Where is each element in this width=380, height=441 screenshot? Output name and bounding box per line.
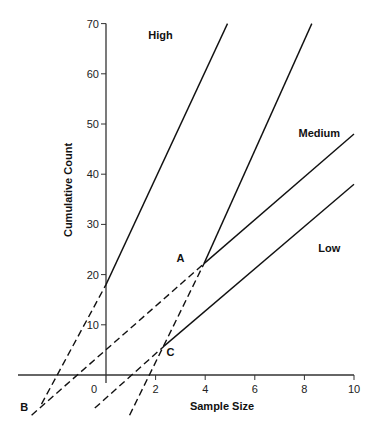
y-axis-title: Cumulative Count bbox=[62, 143, 74, 237]
x-tick-label: 8 bbox=[301, 383, 307, 395]
series-line-high bbox=[106, 24, 228, 285]
y-tick-label: 40 bbox=[87, 168, 99, 180]
series-line-low bbox=[164, 184, 354, 346]
series-group bbox=[32, 24, 354, 416]
x-tick-label: 6 bbox=[252, 383, 258, 395]
y-tick-label: 30 bbox=[87, 218, 99, 230]
y-tick-label: 20 bbox=[87, 269, 99, 281]
annotation-b: B bbox=[20, 401, 28, 413]
series-line-medium-extrapolated bbox=[32, 264, 204, 416]
x-axis-title: Sample Size bbox=[190, 400, 254, 412]
series-line-steep-through-a-extrapolated bbox=[130, 264, 204, 416]
chart: 024681010203040506070 Sample Size Cumula… bbox=[0, 0, 380, 441]
y-tick-label: 10 bbox=[87, 319, 99, 331]
y-tick-label: 70 bbox=[87, 18, 99, 30]
y-tick-label: 60 bbox=[87, 68, 99, 80]
x-tick-label: 0 bbox=[91, 383, 97, 395]
annotation-c: C bbox=[167, 346, 175, 358]
x-tick-label: 4 bbox=[202, 383, 208, 395]
annotation-low: Low bbox=[318, 242, 340, 254]
x-tick-label: 2 bbox=[153, 383, 159, 395]
annotation-a: A bbox=[176, 252, 184, 264]
series-line-steep-through-a bbox=[204, 24, 312, 264]
series-line-low-extrapolated bbox=[95, 346, 165, 408]
y-tick-label: 50 bbox=[87, 118, 99, 130]
annotation-high: High bbox=[148, 29, 173, 41]
x-tick-label: 10 bbox=[348, 383, 360, 395]
annotation-medium: Medium bbox=[298, 127, 340, 139]
